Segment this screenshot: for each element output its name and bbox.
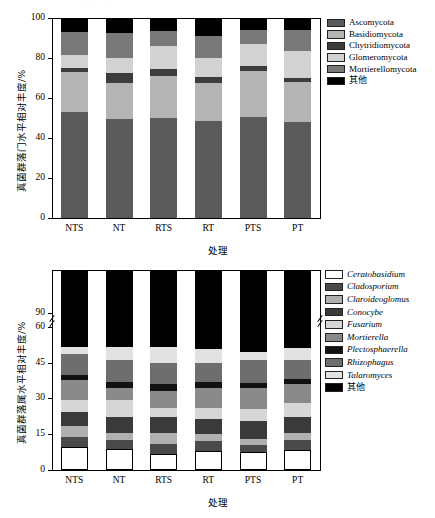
legend-item: Cladosporium xyxy=(325,281,409,294)
legend-label: Conocybe xyxy=(347,308,383,317)
bar-segment xyxy=(61,68,88,72)
bar-segment xyxy=(61,322,88,347)
bar-segment xyxy=(195,408,222,419)
bar-segment xyxy=(284,450,311,470)
bar-segment xyxy=(284,18,311,30)
bar-segment xyxy=(61,347,88,354)
bar-segment xyxy=(150,433,177,444)
legend-item: Chytridiomycota xyxy=(327,40,416,52)
bar-segment xyxy=(195,58,222,76)
legend-label: Talaromyces xyxy=(347,371,392,380)
bar-segment xyxy=(61,412,88,426)
bar-segment xyxy=(106,360,133,381)
legend-label: Mortierellomycota xyxy=(349,65,416,74)
bar-segment xyxy=(195,83,222,121)
legend-swatch xyxy=(325,358,343,367)
bar-segment xyxy=(150,363,177,384)
phylum-x-axis-title: 处理 xyxy=(0,243,435,257)
bar-segment xyxy=(284,403,311,417)
legend-swatch xyxy=(327,42,345,51)
x-tick-label-pt: PT xyxy=(275,476,320,486)
bar-segment xyxy=(240,421,267,439)
legend-label: Ascomycota xyxy=(349,18,394,27)
legend-label: 其他 xyxy=(349,76,367,85)
bar-segment xyxy=(240,270,267,322)
stacked-bar-nts xyxy=(61,270,88,470)
x-tick-label-rts: RTS xyxy=(141,476,186,486)
bar-segment xyxy=(106,83,133,119)
bar-segment xyxy=(240,388,267,409)
legend-swatch xyxy=(327,30,345,39)
bar-segment xyxy=(284,440,311,450)
stacked-bar-rts xyxy=(150,270,177,470)
phylum-y-axis xyxy=(52,18,53,219)
stacked-bar-rts xyxy=(150,18,177,218)
bar-segment xyxy=(240,66,267,71)
bar-segment xyxy=(61,400,88,412)
bar-segment xyxy=(61,447,88,470)
stacked-bar-rt xyxy=(195,18,222,218)
legend-item: 其他 xyxy=(325,381,409,394)
bar-segment xyxy=(106,388,133,400)
bar-segment xyxy=(150,118,177,218)
bar-segment xyxy=(61,18,88,32)
bar-segment xyxy=(61,375,88,381)
bar-segment xyxy=(195,36,222,59)
bar-segment xyxy=(61,55,88,68)
bar-segment xyxy=(106,347,133,360)
y-tick-mark xyxy=(48,470,52,471)
stacked-bar-pt xyxy=(284,270,311,470)
bar-segment xyxy=(284,82,311,122)
y-tick-mark xyxy=(48,434,52,435)
y-tick-mark xyxy=(48,98,52,99)
bar-segment xyxy=(61,437,88,448)
x-tick-label-pt: PT xyxy=(275,224,320,234)
legend-item: Mortierella xyxy=(325,331,409,344)
legend-item: Basidiomycota xyxy=(327,29,416,41)
bar-segment xyxy=(150,391,177,408)
legend-item: Ceratobasidium xyxy=(325,268,409,281)
bar-segment xyxy=(284,417,311,433)
phylum-legend: AscomycotaBasidiomycotaChytridiomycotaGl… xyxy=(327,17,416,87)
bar-segment xyxy=(150,322,177,347)
y-tick-mark xyxy=(48,138,52,139)
bar-segment xyxy=(195,322,222,349)
y-tick-label: 0 xyxy=(12,213,45,223)
bar-segment xyxy=(284,433,311,440)
legend-swatch xyxy=(325,320,343,329)
bar-segment xyxy=(195,363,222,382)
bar-segment xyxy=(284,122,311,218)
y-tick-mark xyxy=(48,218,52,219)
bar-segment xyxy=(150,454,177,470)
genus-right-spine xyxy=(320,270,321,471)
x-tick-label-nts: NTS xyxy=(52,476,97,486)
bar-segment xyxy=(150,69,177,75)
bar-segment xyxy=(61,32,88,55)
genus-top-spine xyxy=(52,270,321,271)
legend-swatch xyxy=(325,308,343,317)
legend-item: 其他 xyxy=(327,75,416,87)
genus-plot-area xyxy=(52,270,320,470)
legend-item: Ascomycota xyxy=(327,17,416,29)
bar-segment xyxy=(61,380,88,399)
legend-swatch xyxy=(325,333,343,342)
bar-segment xyxy=(284,348,311,360)
legend-swatch xyxy=(327,77,345,86)
genus-y-axis xyxy=(52,270,53,471)
legend-label: Mortierella xyxy=(347,333,388,342)
bar-segment xyxy=(150,417,177,433)
bar-segment xyxy=(195,18,222,36)
bar-segment xyxy=(240,352,267,360)
legend-label: Plectosphaerella xyxy=(347,345,408,354)
bar-segment xyxy=(195,388,222,408)
legend-swatch xyxy=(325,383,343,392)
phylum-x-axis xyxy=(52,218,321,219)
stacked-bar-pt xyxy=(284,18,311,218)
bar-segment xyxy=(150,31,177,46)
bar-segment xyxy=(240,18,267,30)
x-tick-label-nts: NTS xyxy=(52,224,97,234)
legend-label: Basidiomycota xyxy=(349,30,403,39)
x-tick-label-pts: PTS xyxy=(231,224,276,234)
bar-segment xyxy=(195,121,222,218)
y-tick-mark xyxy=(48,18,52,19)
